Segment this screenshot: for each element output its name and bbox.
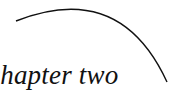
chapter-title: chapter two bbox=[0, 60, 118, 90]
